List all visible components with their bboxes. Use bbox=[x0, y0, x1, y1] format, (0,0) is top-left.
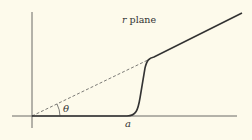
theta-label: θ bbox=[63, 103, 69, 114]
angle-arc bbox=[57, 104, 60, 116]
point-a-label: a bbox=[125, 118, 131, 129]
plane-title: r plane bbox=[122, 14, 156, 25]
r-plane-diagram: θ a r plane bbox=[0, 0, 252, 140]
dashed-ray bbox=[32, 59, 150, 116]
